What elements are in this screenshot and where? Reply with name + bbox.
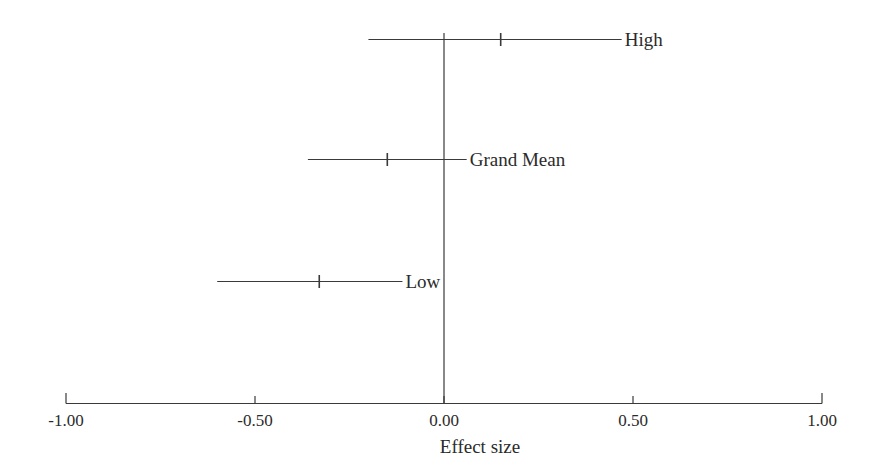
- ci-row-low: [217, 275, 402, 288]
- x-tick-label-0: 0.00: [429, 412, 459, 429]
- x-tick-label-0-5: 0.50: [618, 412, 648, 429]
- x-tick-label--1: -1.00: [48, 412, 83, 429]
- series-label-high: High: [625, 30, 663, 49]
- ci-row-high: [368, 33, 621, 46]
- ci-row-grand-mean: [308, 153, 467, 166]
- plot-canvas: [0, 0, 877, 472]
- series-label-low: Low: [405, 272, 440, 291]
- series-label-grand-mean: Grand Mean: [470, 150, 566, 169]
- x-tick-label-1: 1.00: [807, 412, 837, 429]
- x-axis-title: Effect size: [440, 437, 520, 456]
- x-tick-label--0-5: -0.50: [237, 412, 272, 429]
- forest-plot-figure: High Grand Mean Low -1.00 -0.50 0.00 0.5…: [0, 0, 877, 472]
